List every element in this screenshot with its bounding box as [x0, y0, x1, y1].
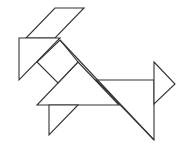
parallelogram-piece	[26, 8, 84, 38]
leg-triangle-piece	[49, 105, 78, 135]
tangram-figure	[0, 0, 185, 151]
tail-triangle-piece	[154, 62, 175, 104]
